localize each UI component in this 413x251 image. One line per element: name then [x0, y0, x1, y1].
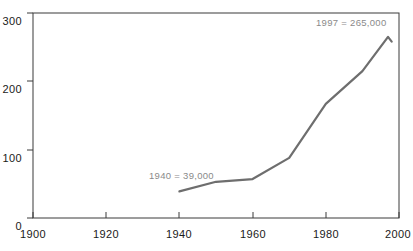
plot-area: [0, 0, 413, 251]
data-series-line: [179, 37, 391, 191]
x-tick-label-1940: 1940: [155, 228, 203, 240]
plot-frame: [33, 13, 399, 218]
x-axis-ticks: [33, 212, 399, 218]
annotation-1997: 1997 = 265,000: [316, 17, 387, 28]
x-tick-label-2000: 2000: [374, 228, 413, 240]
y-axis-ticks: [27, 13, 33, 218]
chart-container: 0 100 200 300 1900 1920 1940 1960 1980 2…: [0, 0, 413, 251]
y-tick-label-200: 200: [0, 83, 22, 95]
y-tick-label-100: 100: [0, 152, 22, 164]
y-tick-label-300: 300: [0, 15, 22, 27]
x-tick-label-1920: 1920: [82, 228, 130, 240]
x-tick-label-1960: 1960: [229, 228, 277, 240]
x-tick-label-1900: 1900: [9, 228, 57, 240]
x-tick-label-1980: 1980: [302, 228, 350, 240]
annotation-1940: 1940 = 39,000: [149, 170, 214, 181]
